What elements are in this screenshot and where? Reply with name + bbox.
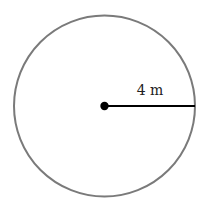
radius-label: 4 m [137, 82, 164, 98]
center-point [100, 102, 108, 110]
circle-diagram: 4 m [0, 0, 205, 207]
